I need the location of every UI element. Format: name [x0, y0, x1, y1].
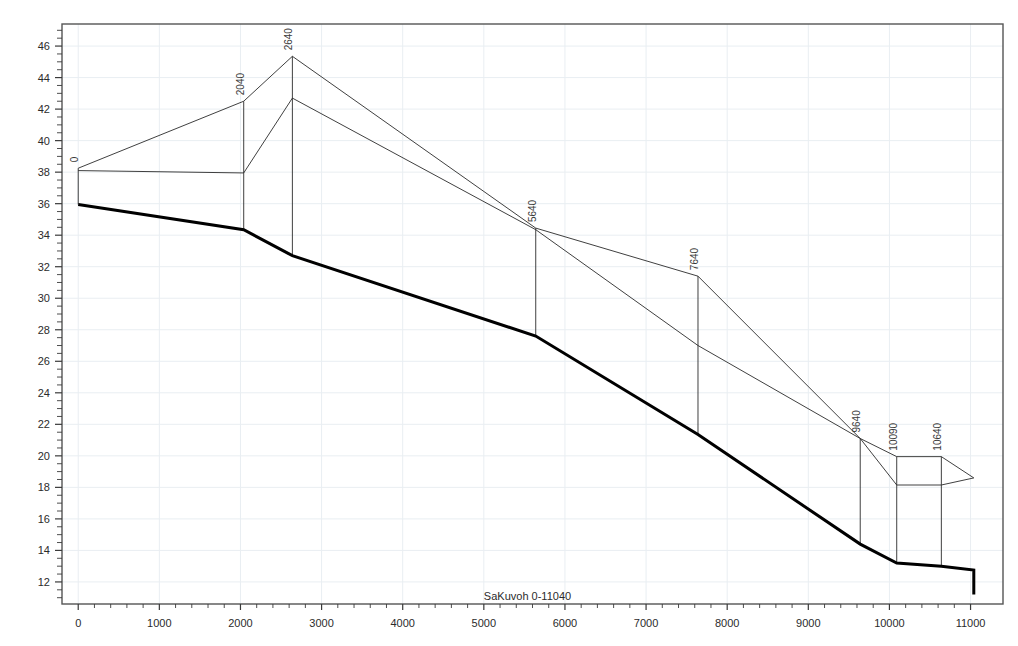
x-tick-label: 9000 [796, 617, 820, 629]
x-tick-label: 0 [75, 617, 81, 629]
y-tick-label: 20 [38, 450, 50, 462]
x-tick-label: 8000 [715, 617, 739, 629]
y-tick-label: 34 [38, 229, 50, 241]
station-label: 10640 [932, 422, 943, 450]
y-tick-label: 44 [38, 72, 50, 84]
x-tick-label: 3000 [309, 617, 333, 629]
y-tick-label: 16 [38, 513, 50, 525]
y-tick-label: 36 [38, 198, 50, 210]
chart-page: 0100020003000400050006000700080009000100… [0, 0, 1018, 646]
x-axis-title-group: SaKuvoh 0-11040 [484, 590, 571, 602]
y-tick-label: 22 [38, 418, 50, 430]
y-tick-label: 40 [38, 135, 50, 147]
y-tick-label: 12 [38, 576, 50, 588]
station-label: 9640 [851, 410, 862, 433]
y-tick-label: 42 [38, 103, 50, 115]
y-tick-label: 38 [38, 166, 50, 178]
x-tick-label: 2000 [228, 617, 252, 629]
station-label: 7640 [689, 247, 700, 270]
x-tick-label: 6000 [553, 617, 577, 629]
profile-chart: 0100020003000400050006000700080009000100… [0, 0, 1018, 646]
y-tick-label: 18 [38, 481, 50, 493]
y-tick-label: 46 [38, 40, 50, 52]
x-tick-label: 4000 [390, 617, 414, 629]
x-tick-label: 11000 [956, 617, 986, 629]
y-tick-label: 14 [38, 544, 50, 556]
station-label: 2640 [283, 28, 294, 51]
station-label: 0 [69, 156, 80, 162]
station-label: 2040 [235, 73, 246, 96]
x-axis-title: SaKuvoh 0-11040 [484, 590, 571, 602]
x-tick-label: 10000 [874, 617, 905, 629]
x-tick-label: 5000 [472, 617, 496, 629]
y-tick-label: 32 [38, 261, 50, 273]
x-tick-label: 1000 [147, 617, 171, 629]
station-label: 5640 [527, 199, 538, 222]
y-tick-label: 28 [38, 324, 50, 336]
x-tick-label: 7000 [634, 617, 658, 629]
chart-background [0, 0, 1018, 646]
y-tick-label: 24 [38, 387, 50, 399]
station-label: 10090 [888, 422, 899, 450]
y-tick-label: 26 [38, 355, 50, 367]
y-tick-label: 30 [38, 292, 50, 304]
